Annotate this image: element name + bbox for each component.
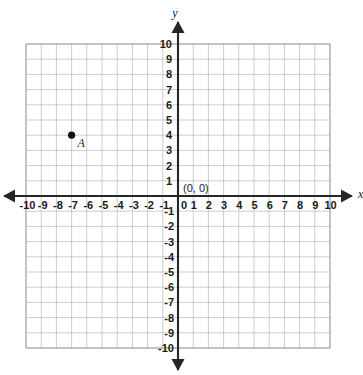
y-tick-label: 5 <box>166 114 172 126</box>
y-tick-label: 8 <box>166 68 172 80</box>
x-tick-label: 7 <box>282 199 288 211</box>
x-tick-label: 6 <box>267 199 273 211</box>
x-tick-label: 5 <box>251 199 257 211</box>
y-tick-label: -4 <box>164 251 175 263</box>
x-tick-label: -9 <box>38 199 48 211</box>
x-axis-label: x <box>357 187 363 201</box>
x-tick-label: 9 <box>312 199 318 211</box>
x-axis-arrow-left <box>3 190 15 203</box>
y-tick-label: 2 <box>166 160 172 172</box>
y-tick-label: -9 <box>164 327 174 339</box>
x-tick-label: -7 <box>68 199 78 211</box>
y-tick-label: -5 <box>164 266 174 278</box>
x-tick-label: -2 <box>144 199 154 211</box>
x-tick-label: -8 <box>53 199 63 211</box>
x-tick-label: 8 <box>297 199 303 211</box>
y-tick-label: 10 <box>160 38 172 50</box>
y-tick-label: -2 <box>164 220 174 232</box>
y-tick-label: -8 <box>164 312 174 324</box>
x-tick-label: 3 <box>221 199 227 211</box>
y-axis-arrow-up <box>172 21 185 33</box>
x-tick-label: -5 <box>99 199 109 211</box>
point-label-a: A <box>77 136 86 150</box>
x-tick-label: 2 <box>206 199 212 211</box>
y-tick-label: -3 <box>164 236 174 248</box>
x-axis-arrow-right <box>341 190 353 203</box>
origin-tick-label: 0 <box>181 199 187 211</box>
x-tick-label: -6 <box>83 199 93 211</box>
y-tick-label: 7 <box>166 84 172 96</box>
x-tick-label: -10 <box>20 199 36 211</box>
y-tick-label: -10 <box>158 342 174 354</box>
y-tick-label: -7 <box>164 296 174 308</box>
y-tick-label: -6 <box>164 281 174 293</box>
y-tick-label: 9 <box>166 53 172 65</box>
y-tick-label: 4 <box>166 129 173 141</box>
y-axis-arrow-down <box>172 359 185 371</box>
y-tick-label: 1 <box>166 175 172 187</box>
x-tick-label: -4 <box>114 199 125 211</box>
y-tick-label: 3 <box>166 144 172 156</box>
origin-annotation: (0, 0) <box>183 182 209 194</box>
coordinate-plane-figure: xy-10-9-8-7-6-5-4-3-2-112345678910012345… <box>0 0 363 375</box>
x-tick-label: -3 <box>129 199 139 211</box>
coordinate-plane-svg: xy-10-9-8-7-6-5-4-3-2-112345678910012345… <box>0 0 363 375</box>
y-axis-label: y <box>171 6 178 20</box>
y-tick-label: 6 <box>166 99 172 111</box>
plotted-point-a[interactable] <box>68 132 75 139</box>
x-tick-label: 10 <box>324 199 336 211</box>
y-tick-label: -1 <box>164 205 174 217</box>
x-tick-label: 4 <box>236 199 243 211</box>
x-tick-label: 1 <box>191 199 197 211</box>
